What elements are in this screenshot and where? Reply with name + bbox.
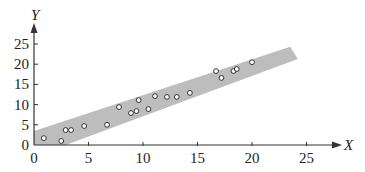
data-point xyxy=(146,107,151,112)
y-axis-arrow-icon xyxy=(31,23,38,33)
y-tick-label: 5 xyxy=(22,117,30,133)
x-tick-label: 15 xyxy=(190,150,205,166)
data-point xyxy=(82,124,87,129)
data-point xyxy=(174,95,179,100)
data-point xyxy=(129,111,134,116)
y-axis-label: Y xyxy=(31,7,41,23)
x-axis-label: X xyxy=(343,137,354,153)
data-point xyxy=(134,109,139,114)
y-tick-label: 0 xyxy=(22,137,30,153)
y-tick-label: 15 xyxy=(14,76,29,92)
data-point xyxy=(153,94,158,99)
x-axis-arrow-icon xyxy=(332,142,342,149)
scatter-chart: 0510152025 0510152025 X Y xyxy=(0,0,365,172)
data-point xyxy=(136,98,141,103)
data-point xyxy=(69,128,74,133)
y-tick-label: 20 xyxy=(14,56,29,72)
data-point xyxy=(250,60,255,65)
data-point xyxy=(187,90,192,95)
x-tick-label: 10 xyxy=(136,150,151,166)
x-ticks: 0510152025 xyxy=(30,142,314,166)
data-point xyxy=(105,122,110,127)
data-point xyxy=(41,136,46,141)
data-point xyxy=(234,67,239,72)
x-tick-label: 0 xyxy=(30,150,38,166)
x-tick-label: 25 xyxy=(299,150,314,166)
data-point xyxy=(165,95,170,100)
data-point xyxy=(117,105,122,110)
data-point xyxy=(219,76,224,81)
x-tick-label: 20 xyxy=(245,150,260,166)
data-point xyxy=(214,69,219,74)
data-point xyxy=(63,128,68,133)
x-tick-label: 5 xyxy=(85,150,93,166)
y-tick-label: 10 xyxy=(14,97,29,113)
y-tick-label: 25 xyxy=(14,36,29,52)
data-point xyxy=(59,139,64,144)
